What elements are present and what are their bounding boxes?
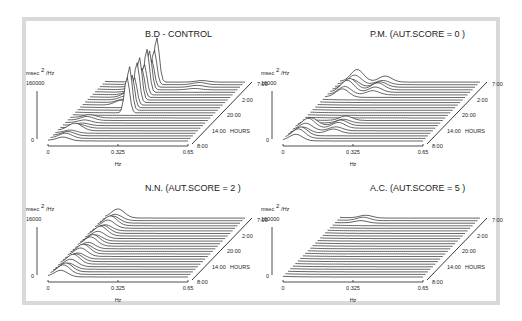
time-tick-label: 8:00 [197,279,208,285]
time-tick-label: 20:00 [462,112,476,118]
figure-canvas: B.D - CONTROLmsec2/Hz160000000.3250.65Hz… [0,0,522,321]
x-tick-label: 0 [281,285,284,291]
panel-title: A.C. (AUT.SCORE = 5 ) [370,183,465,193]
y-axis-unit: msec [26,70,39,76]
y-axis-max-label: 160000 [261,216,279,222]
time-tick-label: 20:00 [227,248,241,254]
time-tick-label: 2:00 [477,97,488,103]
y-axis-unit-hz: /Hz [281,70,290,76]
x-tick-label: 0.325 [111,285,125,291]
y-axis-min-label: 0 [31,273,34,279]
x-tick-label: 0.65 [418,149,429,155]
waterfall-panel-1: B.D - CONTROLmsec2/Hz160000000.3250.65Hz… [26,29,268,167]
waterfall-panel-2: P.M. (AUT.SCORE = 0 )msec2/Hz16000000.32… [261,29,503,167]
time-tick-label: 8:00 [432,279,443,285]
x-tick-label: 0 [281,149,284,155]
x-axis-label: Hz [115,161,122,167]
y-axis-unit-hz: /Hz [281,206,290,212]
spectrum-trace [105,38,245,82]
time-tick-label: 20:00 [227,112,241,118]
time-tick-label: 7:00 [492,81,503,87]
panel-title: P.M. (AUT.SCORE = 0 ) [370,29,465,39]
y-axis-unit-hz: /Hz [46,206,55,212]
x-tick-label: 0.65 [183,149,194,155]
y-axis-max-label: 16000 [261,80,276,86]
y-axis-unit-hz: /Hz [46,70,55,76]
time-axis-label: HOURS [230,128,250,134]
waterfall-panel-3: N.N. (AUT.SCORE = 2 )msec2/Hz16000000.32… [26,183,268,303]
x-tick-label: 0 [46,149,49,155]
time-axis-label: HOURS [465,264,485,270]
x-tick-label: 0.65 [418,285,429,291]
y-axis-unit-exp: 2 [276,67,280,73]
spectrum-trace [103,50,243,84]
time-tick-label: 2:00 [242,233,253,239]
y-axis-max-label: 160000 [26,80,44,86]
panel-title: N.N. (AUT.SCORE = 2 ) [145,183,241,193]
y-axis-min-label: 0 [31,137,34,143]
x-tick-label: 0.65 [183,285,194,291]
x-tick-label: 0.325 [346,149,360,155]
y-axis-unit: msec [261,70,274,76]
y-axis-unit-exp: 2 [41,67,45,73]
y-axis-unit: msec [261,206,274,212]
y-axis-max-label: 16000 [26,216,41,222]
time-tick-label: 20:00 [462,248,476,254]
y-axis-unit-exp: 2 [41,203,45,209]
x-tick-label: 0.325 [346,285,360,291]
x-tick-label: 0.325 [111,149,125,155]
x-axis-label: Hz [350,161,357,167]
x-axis-label: Hz [350,297,357,303]
y-axis-min-label: 0 [266,273,269,279]
panel-title: B.D - CONTROL [145,29,212,39]
waterfall-panel-4: A.C. (AUT.SCORE = 5 )msec2/Hz160000000.3… [261,183,503,303]
time-axis-label: HOURS [230,264,250,270]
time-tick-label: 8:00 [197,143,208,149]
y-axis-unit-exp: 2 [276,203,280,209]
y-axis-unit: msec [26,206,39,212]
time-tick-label: 14:00 [212,128,226,134]
x-axis-label: Hz [115,297,122,303]
time-tick-label: 14:00 [212,264,226,270]
time-tick-label: 8:00 [432,143,443,149]
time-axis-label: HOURS [465,128,485,134]
time-tick-label: 14:00 [447,264,461,270]
time-tick-label: 2:00 [242,97,253,103]
x-tick-label: 0 [46,285,49,291]
time-tick-label: 2:00 [477,233,488,239]
time-tick-label: 14:00 [447,128,461,134]
time-tick-label: 7:00 [492,217,503,223]
y-axis-min-label: 0 [266,137,269,143]
